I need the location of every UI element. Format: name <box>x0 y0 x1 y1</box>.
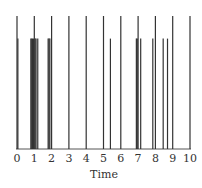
x-axis-ticks: 012345678910 <box>14 152 198 165</box>
event-chart: 012345678910 Time <box>0 0 202 188</box>
x-tick-label: 7 <box>135 152 142 165</box>
x-tick-label: 6 <box>117 152 124 165</box>
x-axis-title: Time <box>90 168 118 181</box>
x-tick-label: 9 <box>169 152 176 165</box>
x-tick-label: 2 <box>48 152 55 165</box>
x-tick-label: 3 <box>65 152 72 165</box>
x-tick-label: 0 <box>14 152 21 165</box>
x-tick-label: 4 <box>83 152 90 165</box>
event-lines <box>17 16 190 149</box>
x-tick-label: 10 <box>183 152 197 165</box>
x-tick-label: 5 <box>100 152 107 165</box>
x-tick-label: 8 <box>152 152 159 165</box>
x-tick-label: 1 <box>31 152 38 165</box>
